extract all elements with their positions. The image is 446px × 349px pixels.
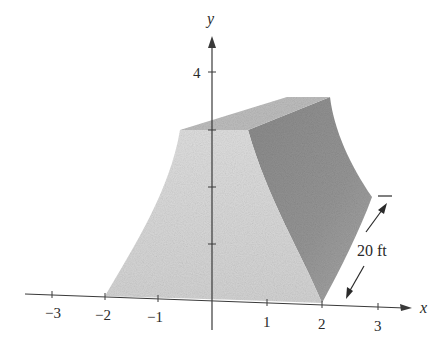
solid-figure: −3 −2 −1 1 2 3 x 4 y 20 ft: [0, 0, 446, 349]
x-tick-label: 3: [374, 318, 382, 334]
dimension-label: 20 ft: [357, 242, 387, 259]
x-tick-label: −2: [95, 307, 111, 323]
figure-canvas: −3 −2 −1 1 2 3 x 4 y 20 ft: [0, 0, 446, 349]
y-axis-arrow-icon: [208, 36, 216, 48]
x-tick-label: 1: [263, 314, 271, 330]
x-tick-label: 2: [318, 316, 326, 332]
x-tick-label: −1: [147, 309, 163, 325]
dimension-arrow-down-icon: [346, 287, 353, 299]
y-tick-label: 4: [193, 65, 201, 81]
y-axis-label: y: [205, 10, 215, 28]
x-axis-label: x: [419, 299, 427, 316]
x-tick-label: −3: [45, 305, 61, 321]
dimension-arrow-up-icon: [378, 203, 387, 214]
x-axis-arrow-icon: [400, 304, 412, 311]
